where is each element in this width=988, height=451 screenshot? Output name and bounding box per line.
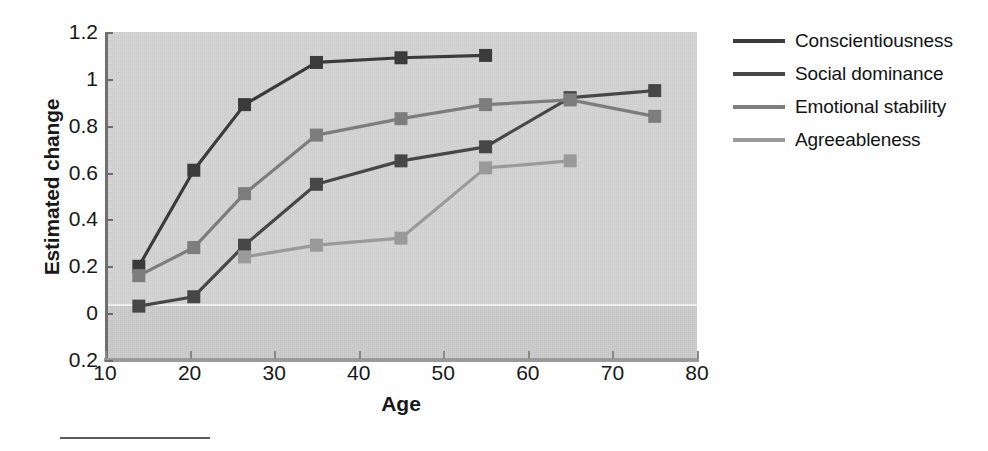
data-point-marker [310, 129, 323, 142]
legend-item[interactable]: Conscientiousness [733, 24, 983, 57]
data-point-marker [395, 112, 408, 125]
data-point-marker [187, 241, 200, 254]
x-tick-label: 80 [667, 362, 727, 383]
data-point-marker [310, 239, 323, 252]
x-tick-label: 40 [329, 362, 389, 383]
data-point-marker [310, 56, 323, 69]
series-line [139, 100, 655, 276]
series-plot [105, 32, 697, 360]
data-point-marker [648, 84, 661, 97]
data-point-marker [238, 187, 251, 200]
x-tick-mark [697, 351, 699, 359]
data-point-marker [310, 178, 323, 191]
legend-line-swatch [733, 105, 785, 109]
data-point-marker [395, 154, 408, 167]
x-tick-label: 60 [498, 362, 558, 383]
series-line [139, 55, 486, 266]
legend-item-label: Social dominance [795, 63, 943, 85]
legend-item-label: Emotional stability [795, 96, 946, 118]
data-point-marker [187, 164, 200, 177]
data-point-marker [479, 161, 492, 174]
y-tick-label: 0.6 [24, 162, 98, 183]
legend-item[interactable]: Social dominance [733, 57, 983, 90]
x-tick-label: 20 [160, 362, 220, 383]
chart-legend: ConscientiousnessSocial dominanceEmotion… [733, 24, 983, 156]
series-emotional-stability [132, 93, 661, 282]
x-tick-label: 50 [413, 362, 473, 383]
data-point-marker [479, 98, 492, 111]
data-point-marker [479, 49, 492, 62]
legend-item[interactable]: Emotional stability [733, 90, 983, 123]
x-tick-label: 30 [244, 362, 304, 383]
y-tick-label: 0.2 [24, 255, 98, 276]
data-point-marker [648, 110, 661, 123]
data-point-marker [238, 250, 251, 263]
data-point-marker [187, 290, 200, 303]
chart-figure: Estimated change Age 0.200.20.40.60.811.… [0, 0, 988, 451]
data-point-marker [238, 239, 251, 252]
legend-item-label: Conscientiousness [795, 30, 953, 52]
data-point-marker [238, 98, 251, 111]
legend-item-label: Agreeableness [795, 129, 920, 151]
legend-line-swatch [733, 39, 785, 43]
x-axis-title: Age [105, 392, 697, 416]
data-point-marker [564, 93, 577, 106]
legend-item[interactable]: Agreeableness [733, 123, 983, 156]
legend-line-swatch [733, 72, 785, 76]
y-tick-label: 1 [24, 68, 98, 89]
y-axis-tick-labels: 0.200.20.40.60.811.2 [12, 0, 98, 451]
data-point-marker [479, 140, 492, 153]
y-tick-label: 1.2 [24, 21, 98, 42]
data-point-marker [132, 300, 145, 313]
legend-line-swatch [733, 138, 785, 142]
data-point-marker [395, 232, 408, 245]
x-tick-label: 10 [75, 362, 135, 383]
y-tick-label: 0 [24, 302, 98, 323]
data-point-marker [132, 269, 145, 282]
data-point-marker [564, 154, 577, 167]
bottom-rule-artifact [60, 437, 210, 439]
x-tick-label: 70 [582, 362, 642, 383]
data-point-marker [395, 51, 408, 64]
y-tick-label: 0.8 [24, 115, 98, 136]
y-tick-label: 0.4 [24, 208, 98, 229]
